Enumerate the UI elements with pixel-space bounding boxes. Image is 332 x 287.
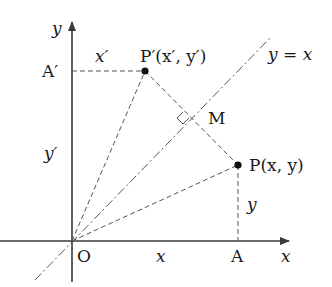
- x-segment-label: x: [156, 246, 166, 266]
- point-p-prime: [141, 67, 148, 74]
- segment-o-p: [72, 165, 238, 241]
- a-prime-label: A′: [41, 61, 58, 81]
- p-prime-label: P′(x′, y′): [140, 46, 206, 66]
- point-p: [234, 161, 241, 168]
- y-axis-label: y: [51, 18, 62, 38]
- y-prime-label: y′: [43, 143, 58, 163]
- x-prime-label: x′: [95, 46, 109, 66]
- p-label: P(x, y): [249, 155, 304, 175]
- a-label: A: [230, 246, 244, 266]
- x-axis-label: x: [281, 246, 291, 266]
- reflection-diagram: y x O A′ x′ P′(x′, y′) y = x M y′ P(x, y…: [0, 0, 332, 287]
- line-label: y = x: [267, 44, 313, 64]
- origin-label: O: [77, 246, 91, 266]
- line-y-equals-x: [35, 37, 271, 280]
- y-segment-label: y: [246, 194, 257, 214]
- segment-o-p-prime: [72, 71, 145, 241]
- m-label: M: [208, 108, 225, 128]
